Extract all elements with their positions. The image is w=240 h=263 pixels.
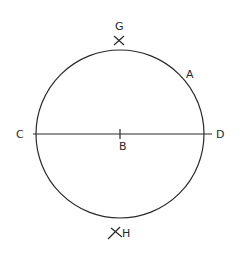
label-g: G: [115, 20, 124, 33]
label-b: B: [119, 140, 127, 153]
geometry-diagram: G A C D B H: [0, 0, 240, 263]
cross-mark-h: [108, 227, 122, 239]
label-h: H: [122, 227, 130, 240]
cross-mark-g: [114, 36, 124, 45]
label-d: D: [216, 128, 224, 141]
label-c: C: [16, 128, 24, 141]
label-a: A: [186, 68, 194, 81]
